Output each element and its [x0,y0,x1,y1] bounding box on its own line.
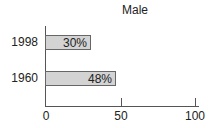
bar-1998: 30% [45,35,91,50]
y-label-1960: 1960 [2,71,38,85]
x-tick-label-0: 0 [31,109,61,123]
x-axis-line [45,106,199,107]
bar-1960: 48% [45,71,116,86]
x-tick-50 [121,98,122,106]
y-label-1998: 1998 [2,35,38,49]
x-tick-label-50: 50 [106,109,136,123]
x-tick-label-100: 100 [180,109,210,123]
chart-title: Male [100,3,170,17]
x-tick-100 [195,98,196,106]
